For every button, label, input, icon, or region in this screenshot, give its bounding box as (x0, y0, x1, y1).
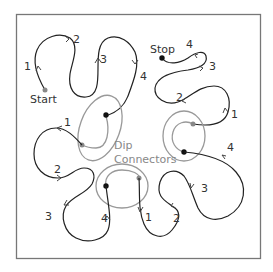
diagram-frame (17, 15, 261, 259)
segment-label: 2 (176, 91, 183, 104)
segment-label: 1 (145, 211, 152, 224)
dip-connector-left-inner (82, 116, 108, 148)
connector-dot-gray (191, 122, 196, 127)
arrow-icon (223, 108, 228, 113)
connector-dot-black (103, 112, 108, 117)
arrow-icon (195, 54, 198, 58)
diagram-canvas: 1 2 3 4 Start 1 2 3 4 Stop Dip Connector… (0, 0, 273, 272)
segment-label: 2 (173, 212, 180, 225)
dip-connectors-label-line1: Dip (114, 139, 133, 152)
segment-label: 4 (140, 70, 147, 83)
segment-label: 4 (227, 141, 234, 154)
dip-connector-right-inner (172, 122, 193, 152)
segment-label: 1 (24, 60, 31, 73)
segment-label: 4 (101, 212, 108, 225)
segment-label: 2 (54, 163, 61, 176)
dip-connectors-label-line2: Connectors (114, 153, 177, 166)
arrow-icon (222, 155, 226, 159)
segment-label: 3 (209, 60, 216, 73)
segment-label: 2 (73, 33, 80, 46)
path-top-right (155, 52, 229, 125)
path-bottom-left (34, 128, 110, 241)
segment-label: 3 (45, 210, 52, 223)
start-dot (43, 88, 48, 93)
segment-label: 1 (231, 108, 238, 121)
segment-label: 1 (64, 116, 71, 129)
dip-connector-bottom-inner (106, 170, 139, 186)
segment-label: 3 (201, 182, 208, 195)
stop-dot (159, 55, 164, 60)
segment-label: 4 (186, 38, 193, 51)
start-label: Start (30, 93, 58, 106)
segment-label: 3 (100, 53, 107, 66)
arrow-icon (199, 66, 203, 71)
stop-label: Stop (150, 43, 175, 56)
arrow-icon (36, 66, 41, 71)
arrow-icon (190, 183, 194, 188)
arrow-icon (171, 203, 175, 208)
